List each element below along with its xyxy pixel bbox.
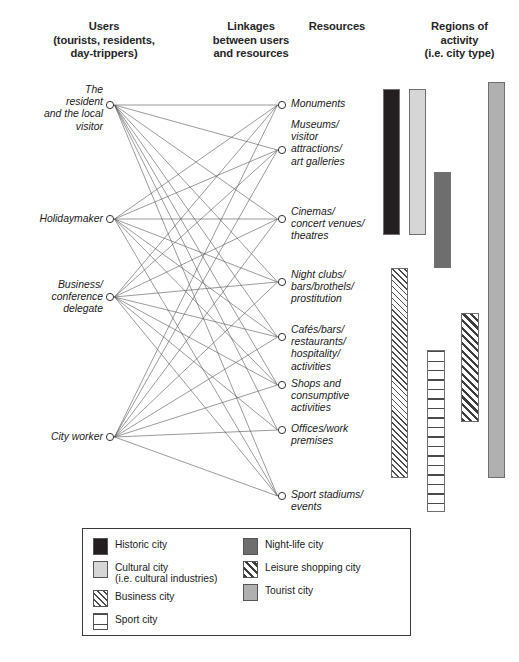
legend-item-right-2: Tourist city: [243, 583, 408, 602]
link-u0-r5: [115, 105, 278, 385]
link-u1-r4: [115, 219, 278, 337]
bar-tourist: [488, 82, 505, 478]
legend-item-right-1: Leisure shopping city: [243, 560, 408, 579]
legend-column-left: Historic cityCultural city(i.e. cultural…: [93, 537, 243, 635]
legend-column-right: Night-life cityLeisure shopping cityTour…: [243, 537, 408, 606]
legend-swatch-icon-diag-bold: [243, 561, 258, 578]
legend-label: Tourist city: [265, 583, 313, 596]
node-u2[interactable]: [106, 293, 113, 300]
node-r0[interactable]: [278, 101, 285, 108]
legend-swatch-icon-solid-black: [93, 538, 108, 555]
node-r1[interactable]: [278, 146, 285, 153]
legend-swatch-icon-solid-dkgray: [243, 538, 258, 555]
legend-item-left-1: Cultural city(i.e. cultural industries): [93, 560, 243, 585]
link-u1-r1: [115, 150, 278, 219]
legend-item-left-3: Sport city: [93, 612, 243, 631]
node-r4[interactable]: [278, 333, 285, 340]
legend-label: Leisure shopping city: [265, 560, 361, 573]
link-u3-r3: [115, 282, 278, 437]
legend-label: Night-life city: [265, 537, 323, 550]
node-u1[interactable]: [106, 215, 113, 222]
node-r6[interactable]: [278, 426, 285, 433]
link-u3-r2: [115, 219, 278, 437]
bar-sport: [427, 350, 445, 512]
link-u2-r1: [115, 150, 278, 297]
node-r7[interactable]: [278, 492, 285, 499]
legend-item-right-0: Night-life city: [243, 537, 408, 556]
legend-swatch-icon-diag-fine: [93, 590, 108, 607]
legend-swatch-icon-solid-medgray: [243, 584, 258, 601]
link-u2-r0: [115, 105, 278, 297]
link-group: [115, 105, 278, 496]
bar-cultural: [409, 89, 426, 235]
legend-swatch-icon-solid-ltgray: [93, 561, 108, 578]
legend-item-left-2: Business city: [93, 589, 243, 608]
link-u2-r5: [115, 297, 278, 385]
node-u3[interactable]: [106, 433, 113, 440]
link-u0-r6: [115, 105, 278, 430]
bar-historic: [383, 89, 400, 235]
figure-caption: [4, 648, 504, 661]
link-u3-r1: [115, 150, 278, 437]
diagram-root: Users(tourists, residents,day-trippers) …: [0, 0, 519, 662]
link-u0-r7: [115, 105, 278, 496]
node-r5[interactable]: [278, 381, 285, 388]
node-r2[interactable]: [278, 215, 285, 222]
legend-swatch-icon-horiz: [93, 613, 108, 630]
link-u3-r6: [115, 430, 278, 437]
bar-night-life: [434, 172, 451, 268]
link-u2-r7: [115, 297, 278, 496]
legend-label: Sport city: [115, 612, 157, 625]
legend-item-left-0: Historic city: [93, 537, 243, 556]
link-u2-r3: [115, 282, 278, 297]
link-u1-r7: [115, 219, 278, 496]
link-u2-r2: [115, 219, 278, 297]
node-r3[interactable]: [278, 278, 285, 285]
bar-business: [391, 268, 408, 478]
link-u1-r3: [115, 219, 278, 282]
node-u0[interactable]: [106, 101, 113, 108]
legend-label: Cultural city(i.e. cultural industries): [115, 560, 217, 585]
legend: Historic cityCultural city(i.e. cultural…: [82, 528, 411, 636]
link-u0-r1: [115, 105, 278, 150]
legend-label: Historic city: [115, 537, 167, 550]
legend-label: Business city: [115, 589, 174, 602]
link-u3-r5: [115, 385, 278, 437]
bar-leisure-shopping: [461, 313, 479, 422]
